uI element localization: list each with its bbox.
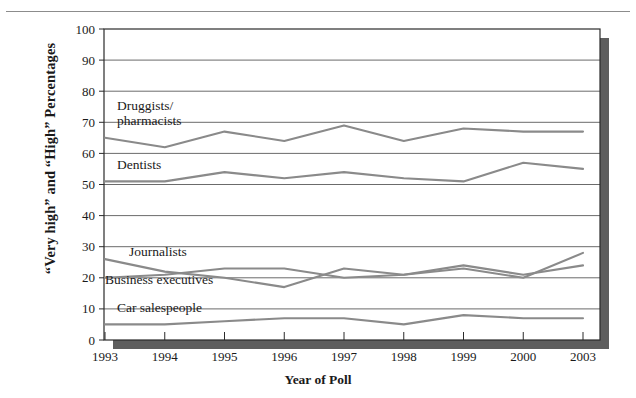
y-tick-label: 30 [82, 239, 95, 254]
x-tick-label: 1995 [212, 349, 238, 364]
y-tick-label: 100 [76, 22, 96, 37]
y-tick-label: 80 [82, 84, 95, 99]
series-line [105, 315, 583, 324]
series-annotation: Druggists/ [117, 98, 174, 113]
y-tick-label: 40 [82, 208, 95, 223]
x-tick-label: 1997 [331, 349, 358, 364]
y-tick-label: 20 [82, 270, 95, 285]
x-tick-label: 1999 [451, 349, 477, 364]
line-chart-plot: 0102030405060708090100 19931994199519961… [0, 0, 636, 398]
y-tick-label: 10 [82, 301, 95, 316]
x-tick-label: 1996 [271, 349, 298, 364]
x-tick-label: 2000 [510, 349, 536, 364]
series-annotation: Car salespeople [117, 300, 202, 315]
x-tick-label: 1994 [152, 349, 179, 364]
series-line [105, 125, 583, 147]
y-tick-label: 90 [82, 53, 95, 68]
x-tick-label: 2003 [570, 349, 596, 364]
x-tick-label: 1998 [391, 349, 417, 364]
data-series-lines [105, 125, 583, 324]
series-annotation: Dentists [117, 157, 161, 172]
x-tick-label: 1993 [92, 349, 118, 364]
series-annotations: Druggists/pharmacistsDentistsJournalists… [105, 98, 213, 315]
y-tick-label: 50 [82, 177, 95, 192]
series-annotation: Journalists [129, 244, 187, 259]
series-annotation: Business executives [105, 272, 213, 287]
y-tick-label: 60 [82, 146, 95, 161]
y-tick-label: 70 [82, 115, 95, 130]
series-annotation: pharmacists [117, 113, 181, 128]
y-tick-label: 0 [89, 333, 96, 348]
figure-container: “Very high” and “High” Percentages Year … [0, 0, 636, 398]
series-line [105, 163, 583, 182]
y-axis-ticks: 0102030405060708090100 [76, 22, 105, 348]
